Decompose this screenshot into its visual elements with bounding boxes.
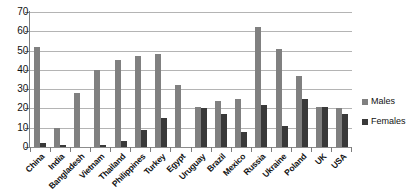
bar-females-ukraine[interactable] [282,126,288,147]
bar-group-uruguay[interactable] [191,12,211,147]
x-label-slot: USA [332,150,352,194]
y-axis-label-30: 30 [4,84,28,94]
legend-item-females[interactable]: Females [362,116,414,127]
y-axis-label-60: 60 [4,26,28,36]
bar-group-turkey[interactable] [151,12,171,147]
x-axis-labels: ChinaIndiaBangladeshVietnamThailandPhili… [30,150,352,194]
bar-females-usa[interactable] [342,114,348,147]
bar-group-brazil[interactable] [211,12,231,147]
y-axis-label-70: 70 [4,7,28,17]
bar-group-china[interactable] [30,12,50,147]
bar-males-bangladesh[interactable] [74,93,80,147]
bar-group-india[interactable] [50,12,70,147]
x-label-slot: Uruguay [191,150,211,194]
y-axis-label-50: 50 [4,46,28,56]
bar-group-bangladesh[interactable] [70,12,90,147]
x-axis-label-china: China [24,152,46,174]
x-axis-label-uk: UK [313,152,328,167]
y-axis-label-20: 20 [4,103,28,113]
bar-group-russia[interactable] [251,12,271,147]
x-label-slot: China [30,150,50,194]
legend-swatch-females-icon [362,119,368,125]
chart-legend: MalesFemales [362,96,414,136]
bar-group-thailand[interactable] [111,12,131,147]
bar-females-mexico[interactable] [241,132,247,147]
bar-males-thailand[interactable] [115,60,121,147]
x-label-slot: UK [312,150,332,194]
y-axis-label-40: 40 [4,65,28,75]
legend-item-males[interactable]: Males [362,96,414,107]
bar-females-uruguay[interactable] [201,108,207,147]
legend-label-males: Males [371,96,395,107]
y-axis-label-0: 0 [4,142,28,152]
bar-group-vietnam[interactable] [90,12,110,147]
bar-males-china[interactable] [34,47,40,147]
x-label-slot: Poland [292,150,312,194]
bar-group-usa[interactable] [332,12,352,147]
bar-group-poland[interactable] [292,12,312,147]
bar-females-uk[interactable] [322,107,328,148]
bar-males-vietnam[interactable] [94,70,100,147]
y-axis-label-10: 10 [4,123,28,133]
bar-females-brazil[interactable] [221,114,227,147]
bar-group-uk[interactable] [312,12,332,147]
bar-group-egypt[interactable] [171,12,191,147]
bar-group-philippines[interactable] [131,12,151,147]
bar-group-mexico[interactable] [231,12,251,147]
bar-males-egypt[interactable] [175,85,181,147]
bar-females-turkey[interactable] [161,118,167,147]
bar-females-poland[interactable] [302,99,308,147]
legend-swatch-males-icon [362,99,368,105]
bar-females-philippines[interactable] [141,130,147,147]
bar-group-ukraine[interactable] [272,12,292,147]
x-label-slot: Turkey [151,150,171,194]
legend-label-females: Females [371,116,406,127]
x-axis-label-usa: USA [330,152,349,171]
bar-groups [30,12,352,147]
plot-area [30,12,352,147]
bar-chart: 706050403020100 ChinaIndiaBangladeshViet… [0,0,414,194]
bar-females-russia[interactable] [261,105,267,147]
